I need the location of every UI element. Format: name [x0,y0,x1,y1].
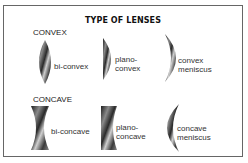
label-bi-concave: bi-concave [51,127,90,136]
label-concave-meniscus: concave meniscus [177,124,211,142]
plano-convex-lens-icon [101,38,115,80]
plano-concave-lens-icon [101,106,117,150]
section-heading-convex: CONVEX [33,28,67,37]
bi-convex-lens-icon [37,40,53,84]
diagram-title: TYPE OF LENSES [4,16,242,25]
section-heading-concave: CONCAVE [33,95,72,104]
bi-concave-lens-icon [31,106,49,150]
label-convex-meniscus: convex meniscus [178,56,212,74]
label-plano-concave: plano- concave [116,123,146,141]
label-bi-convex: bi-convex [54,62,88,71]
label-plano-convex: plano- convex [115,55,140,73]
